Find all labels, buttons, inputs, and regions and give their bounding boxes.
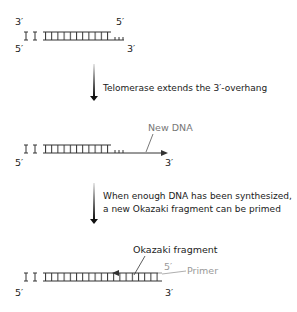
stage1-top-right-5prime: 5′ [116, 16, 124, 27]
stage1-telomere-duplex: 3′ 5′ 5′ 3′ [15, 16, 135, 54]
stage1-dna-ladder [43, 32, 124, 40]
stage1-top-left-3prime: 3′ [15, 16, 23, 27]
telomere-replication-diagram: 3′ 5′ 5′ 3′ Telomerase extends the 3′-ov… [0, 0, 297, 312]
stage3-okazaki-priming: Okazaki fragment 5′ Primer 5′ 3′ [15, 244, 218, 298]
stage3-bottom-right-3prime: 3′ [165, 287, 173, 298]
stage3-bottom-left-5prime: 5′ [15, 287, 23, 298]
stage1-end-markers [24, 32, 37, 40]
primer-label: Primer [187, 265, 218, 276]
step2-caption-line1: When enough DNA has been synthesized, [103, 191, 292, 201]
stage1-bottom-left-5prime: 5′ [15, 43, 23, 54]
step1-caption: Telomerase extends the 3′-overhang [102, 83, 267, 93]
new-dna-arrowhead [161, 150, 168, 156]
stage3-end-markers [24, 273, 37, 281]
step2-arrow [90, 183, 98, 224]
stage2-end-markers [24, 145, 37, 153]
step2-caption-line2: a new Okazaki fragment can be primed [103, 204, 281, 214]
stage1-bottom-right-3prime: 3′ [127, 43, 135, 54]
stage2-bottom-right-3prime: 3′ [165, 157, 173, 168]
step1-arrow [90, 64, 98, 101]
stage2-dna-ladder [43, 145, 163, 153]
new-dna-leader-line [146, 134, 153, 152]
new-dna-label: New DNA [148, 122, 193, 133]
okazaki-leader-line [134, 256, 145, 275]
primer-5prime-label: 5′ [164, 261, 172, 272]
okazaki-fragment-label: Okazaki fragment [133, 244, 218, 255]
stage2-extended-strand: New DNA 5′ 3′ [15, 122, 193, 168]
stage3-dna-ladder [43, 273, 162, 281]
stage2-bottom-left-5prime: 5′ [15, 157, 23, 168]
